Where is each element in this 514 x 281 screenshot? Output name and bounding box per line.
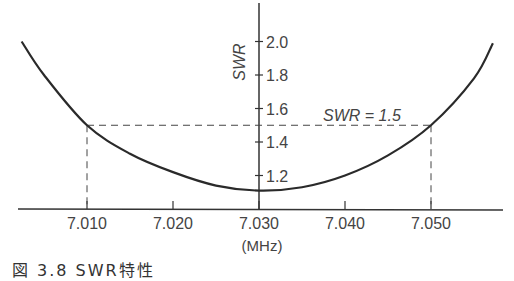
y-tick-label: 1.2 [266, 168, 288, 185]
x-axis [18, 209, 503, 210]
y-tick-label: 1.6 [266, 101, 288, 118]
x-unit-label: (MHz) [242, 237, 283, 254]
x-tick-label: 7.050 [411, 215, 451, 232]
figure-caption: 図 3.8 SWR特性 [12, 257, 155, 281]
y-ticks: 1.21.41.61.82.0 [255, 34, 288, 185]
y-tick-label: 2.0 [266, 34, 288, 51]
y-tick-label: 1.8 [266, 67, 288, 84]
x-tick-label: 7.020 [153, 215, 193, 232]
y-axis-label: SWR [231, 43, 248, 81]
swr-curve [22, 42, 493, 191]
x-tick-label: 7.040 [325, 215, 365, 232]
swr-annotation: SWR = 1.5 [323, 107, 401, 124]
x-tick-label: 7.010 [67, 215, 107, 232]
x-ticks: 7.0107.0207.0307.0407.050 [67, 201, 451, 232]
y-tick-label: 1.4 [266, 134, 288, 151]
x-tick-label: 7.030 [239, 215, 279, 232]
